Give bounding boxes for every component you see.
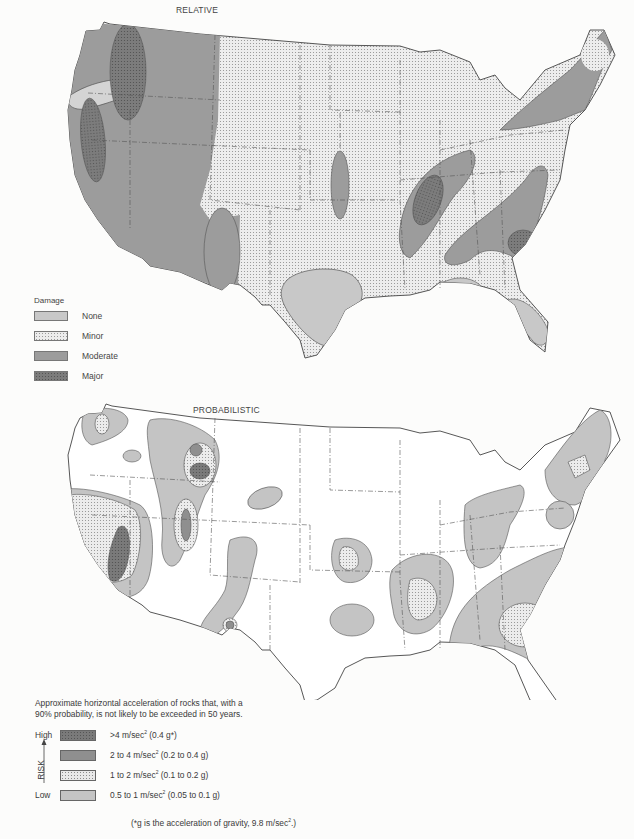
- legend-label: Major: [82, 371, 103, 381]
- legend-label: 0.5 to 1 m/sec2 (0.05 to 0.1 g): [110, 790, 220, 800]
- swatch-2to4: [60, 750, 96, 761]
- swatch-major: [34, 371, 68, 381]
- probabilistic-legend: Approximate horizontal acceleration of r…: [35, 698, 255, 805]
- swatch-gt4: [60, 730, 96, 741]
- legend-label: Moderate: [82, 351, 118, 361]
- legend-item-0.5to1: Low 0.5 to 1 m/sec2 (0.05 to 0.1 g): [35, 785, 255, 805]
- legend-label: 2 to 4 m/sec2 (0.2 to 0.4 g): [110, 750, 208, 760]
- legend-header: Damage: [34, 296, 118, 305]
- legend-item-major: Major: [34, 366, 118, 386]
- swatch-minor: [34, 331, 68, 341]
- legend-item-minor: Minor: [34, 326, 118, 346]
- legend-item-gt4: High >4 m/sec2 (0.4 g*): [35, 725, 255, 745]
- legend-item-2to4: 2 to 4 m/sec2 (0.2 to 0.4 g): [35, 745, 255, 765]
- legend-item-moderate: Moderate: [34, 346, 118, 366]
- relative-legend: Damage None Minor Moderate Major: [34, 296, 118, 386]
- probabilistic-map-regions: [55, 404, 620, 700]
- legend-description: Approximate horizontal acceleration of r…: [35, 698, 255, 719]
- probabilistic-hazard-map: [0, 400, 634, 700]
- legend-rows: RISK High >4 m/sec2 (0.4 g*) 2 to 4 m/se…: [35, 725, 255, 805]
- legend-label: 1 to 2 m/sec2 (0.1 to 0.2 g): [110, 770, 208, 780]
- risk-low-label: Low: [35, 790, 60, 800]
- swatch-0.5to1: [60, 790, 96, 801]
- legend-item-1to2: 1 to 2 m/sec2 (0.1 to 0.2 g): [35, 765, 255, 785]
- gravity-footnote: (*g is the acceleration of gravity, 9.8 …: [131, 818, 296, 828]
- legend-label: Minor: [82, 331, 103, 341]
- risk-axis: RISK: [37, 739, 51, 783]
- legend-item-none: None: [34, 306, 118, 326]
- swatch-none: [34, 311, 68, 321]
- legend-label: None: [82, 311, 102, 321]
- legend-label: >4 m/sec2 (0.4 g*): [110, 730, 177, 740]
- risk-axis-label: RISK: [36, 760, 46, 780]
- swatch-1to2: [60, 770, 96, 781]
- swatch-moderate: [34, 351, 68, 361]
